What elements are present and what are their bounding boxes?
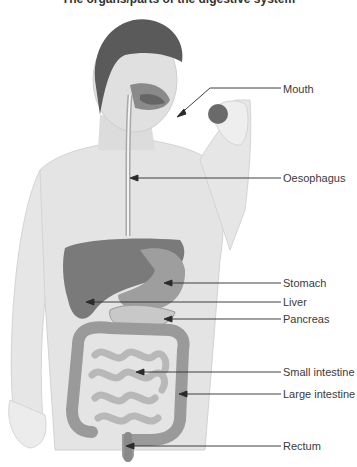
label-oesophagus: Oesophagus: [283, 172, 345, 184]
label-large-intestine: Large intestine: [283, 388, 355, 400]
apple: [208, 104, 228, 124]
arrowhead-icon: [177, 109, 186, 117]
label-small-intestine: Small intestine: [283, 366, 355, 378]
body-figure: [9, 19, 251, 450]
label-liver: Liver: [283, 296, 307, 308]
label-mouth: Mouth: [283, 83, 314, 95]
label-rectum: Rectum: [283, 440, 321, 452]
label-stomach: Stomach: [283, 277, 326, 289]
label-pancreas: Pancreas: [283, 313, 329, 325]
